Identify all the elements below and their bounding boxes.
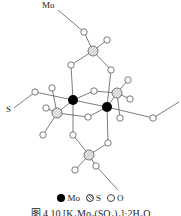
bond-extension <box>153 102 179 118</box>
o-atom <box>68 62 74 68</box>
legend-item-o: O <box>107 193 124 203</box>
bond <box>107 70 111 107</box>
bond-extension <box>96 166 118 190</box>
o-atom <box>127 96 133 102</box>
o-atom <box>104 37 110 43</box>
s-atom <box>88 46 98 56</box>
o-atom <box>150 115 156 121</box>
bond <box>107 107 108 143</box>
o-atom <box>91 88 97 94</box>
figure-caption: 图 4.10 [K₄Mo₂(SO₄)₄]·2H₂O <box>0 205 181 216</box>
bond-extension <box>58 10 84 32</box>
s-atom <box>84 150 94 160</box>
legend-item-mo: Mo <box>57 193 80 203</box>
legend: Mo S O <box>0 193 181 203</box>
s-atom <box>52 108 62 118</box>
mo-atom <box>102 102 112 112</box>
o-atom <box>125 77 131 83</box>
o-atom <box>43 105 49 111</box>
bond <box>73 100 107 107</box>
mo-label-top: Mo <box>42 0 55 10</box>
bond-extension <box>14 92 35 108</box>
o-atom <box>117 115 123 121</box>
o-atom-icon <box>107 194 115 202</box>
o-atom <box>81 29 87 35</box>
bond <box>71 65 73 100</box>
o-atom <box>40 132 46 138</box>
o-atom <box>85 114 91 120</box>
legend-item-s: S <box>86 193 101 203</box>
s-atom-icon <box>86 194 94 202</box>
s-label-left: S <box>6 104 11 114</box>
o-atom <box>108 67 114 73</box>
mo-atom <box>68 95 78 105</box>
s-atom <box>112 88 122 98</box>
o-atom <box>49 85 55 91</box>
o-atom <box>72 167 78 173</box>
o-atom <box>93 163 99 169</box>
mo-atom-icon <box>57 194 65 202</box>
o-atom <box>32 89 38 95</box>
o-atom <box>105 140 111 146</box>
bond <box>107 107 153 118</box>
o-atom <box>70 132 76 138</box>
molecular-structure-diagram <box>0 0 181 195</box>
